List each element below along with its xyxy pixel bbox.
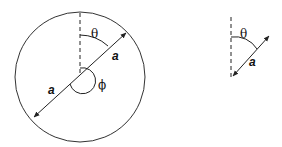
right-figure: θ a <box>231 17 269 78</box>
theta-label: θ <box>91 27 98 41</box>
phi-label: ϕ <box>98 78 106 92</box>
diameter-double-arrow <box>34 33 126 117</box>
theta-label: θ <box>240 27 247 41</box>
radius-label: a <box>249 55 256 69</box>
left-figure: θ a a ϕ <box>15 12 145 142</box>
diagram-canvas: θ a a ϕ θ a <box>0 0 282 147</box>
radius-label-upper: a <box>112 49 119 63</box>
circle <box>15 12 145 142</box>
radius-label-lower: a <box>48 83 55 97</box>
